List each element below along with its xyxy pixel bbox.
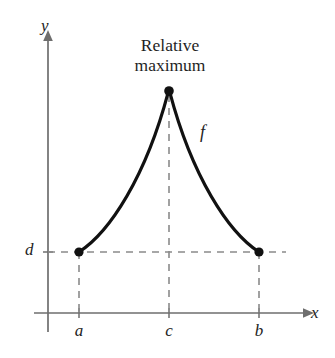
relative-maximum-figure: Relative maximum y x d f a c b	[0, 0, 335, 358]
guide-lines-group	[48, 95, 286, 313]
point-relative-maximum	[164, 86, 174, 96]
curve-right-branch	[170, 93, 259, 252]
y-axis-label: y	[41, 16, 49, 35]
point-left-endpoint	[74, 247, 83, 256]
x-axis-label: x	[311, 303, 319, 322]
annotation-line-1: Relative	[101, 36, 239, 56]
tick-marks-group	[43, 252, 259, 318]
point-right-endpoint	[254, 247, 263, 256]
x-tick-label-a: a	[69, 321, 89, 340]
curve-left-branch	[79, 93, 168, 252]
y-tick-label-d: d	[25, 240, 34, 259]
relative-maximum-annotation: Relative maximum	[101, 36, 239, 75]
annotation-line-2: maximum	[101, 56, 239, 76]
x-tick-label-c: c	[159, 321, 179, 340]
axes-group	[34, 30, 314, 332]
curve-label-f: f	[200, 122, 205, 142]
x-tick-label-b: b	[249, 321, 269, 340]
